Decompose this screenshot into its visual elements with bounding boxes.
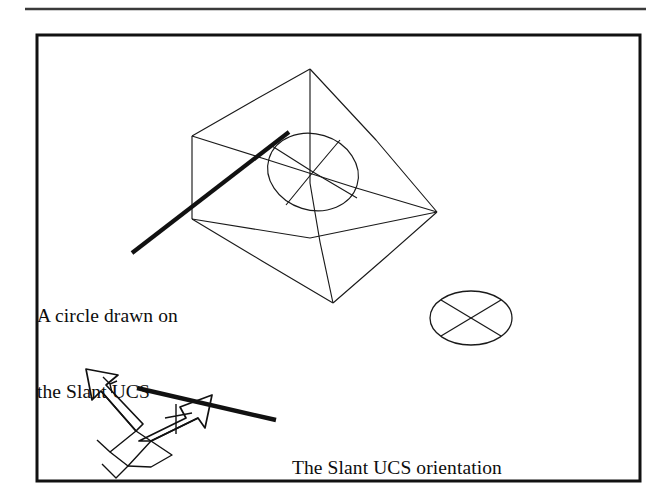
circle-annotation-line-1: A circle drawn on xyxy=(37,303,178,328)
ucs-annotation: The Slant UCS orientation xyxy=(292,404,502,500)
wedge-solid xyxy=(192,69,437,303)
wedge-edge-ridge-left xyxy=(192,69,310,136)
wedge-edge-slant-top xyxy=(192,136,437,212)
wedge-edge-base-right xyxy=(333,212,437,303)
slant-circle-crossline-a xyxy=(272,146,357,198)
wedge-edge-interior-vertical xyxy=(310,183,333,303)
circle-annotation: A circle drawn on the Slant UCS xyxy=(37,252,178,455)
circle-annotation-line-2: the Slant UCS xyxy=(37,379,178,404)
ucs-icon-base-extension-bottom xyxy=(102,464,128,478)
wedge-edge-ridge-right xyxy=(310,69,437,212)
wedge-edge-base-left xyxy=(192,219,333,303)
figure-page: A circle drawn on the Slant UCS The Slan… xyxy=(0,0,671,500)
slant-circle-crossline-b xyxy=(286,140,340,205)
ellipse-on-world-ucs xyxy=(430,291,512,345)
leader-to-circle xyxy=(132,132,289,253)
ucs-annotation-line-1: The Slant UCS orientation xyxy=(292,455,502,480)
circle-on-slant-ucs xyxy=(258,122,368,222)
wedge-edge-interior-diagonal xyxy=(192,212,437,238)
